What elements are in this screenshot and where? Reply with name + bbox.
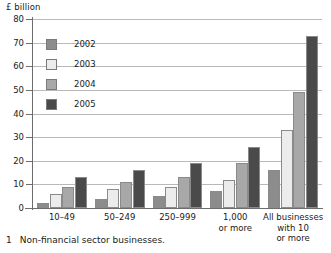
y-tick-label-0: 0 xyxy=(4,204,24,213)
y-tick-mark-0 xyxy=(26,208,32,209)
y-tick-mark-60 xyxy=(26,66,32,67)
y-tick-label-50: 50 xyxy=(4,86,24,95)
bar xyxy=(120,182,132,208)
legend-item: 2002 xyxy=(46,36,116,56)
legend-item: 2005 xyxy=(46,96,116,116)
bar xyxy=(178,177,190,208)
footnote-text: Non-financial sector businesses. xyxy=(20,235,165,245)
bar xyxy=(190,163,202,208)
legend-item-label: 2004 xyxy=(74,79,96,90)
footnote-marker: 1 xyxy=(6,235,12,245)
bar xyxy=(75,177,87,208)
legend-swatch-icon xyxy=(46,99,57,110)
footnote: 1Non-financial sector businesses. xyxy=(6,235,165,245)
y-tick-label-30: 30 xyxy=(4,133,24,142)
bar xyxy=(62,187,74,208)
bar xyxy=(236,163,248,208)
bar xyxy=(50,194,62,208)
y-tick-mark-30 xyxy=(26,137,32,138)
legend-item-label: 2005 xyxy=(74,99,96,110)
chart-legend: 2002200320042005 xyxy=(46,36,116,116)
bar xyxy=(210,191,222,208)
bar xyxy=(223,180,235,208)
y-tick-mark-40 xyxy=(26,114,32,115)
y-tick-label-70: 70 xyxy=(4,39,24,48)
x-axis-line xyxy=(25,208,323,209)
gridline-80 xyxy=(33,19,322,20)
y-tick-mark-80 xyxy=(26,19,32,20)
y-tick-mark-20 xyxy=(26,161,32,162)
y-tick-label-10: 10 xyxy=(4,180,24,189)
legend-item-label: 2002 xyxy=(74,39,96,50)
bar xyxy=(165,187,177,208)
y-tick-label-80: 80 xyxy=(4,15,24,24)
bar xyxy=(37,203,49,208)
x-axis-category-label: All businesses with 10 or more xyxy=(254,212,331,244)
legend-swatch-icon xyxy=(46,59,57,70)
y-tick-label-40: 40 xyxy=(4,110,24,119)
bar xyxy=(306,36,318,208)
y-axis-tick-labels: 01020304050607080 xyxy=(0,0,24,253)
y-tick-label-60: 60 xyxy=(4,62,24,71)
legend-swatch-icon xyxy=(46,79,57,90)
legend-item-label: 2003 xyxy=(74,59,96,70)
gridline-30 xyxy=(33,137,322,138)
y-tick-mark-70 xyxy=(26,43,32,44)
legend-item: 2004 xyxy=(46,76,116,96)
y-tick-label-20: 20 xyxy=(4,157,24,166)
legend-swatch-icon xyxy=(46,39,57,50)
bar xyxy=(248,147,260,208)
bar xyxy=(268,170,280,208)
bar xyxy=(293,92,305,208)
bar xyxy=(281,130,293,208)
bar xyxy=(95,199,107,208)
bar xyxy=(133,170,145,208)
gridline-20 xyxy=(33,161,322,162)
legend-item: 2003 xyxy=(46,56,116,76)
y-tick-mark-50 xyxy=(26,90,32,91)
bar xyxy=(107,189,119,208)
y-tick-mark-10 xyxy=(26,184,32,185)
bar xyxy=(153,196,165,208)
